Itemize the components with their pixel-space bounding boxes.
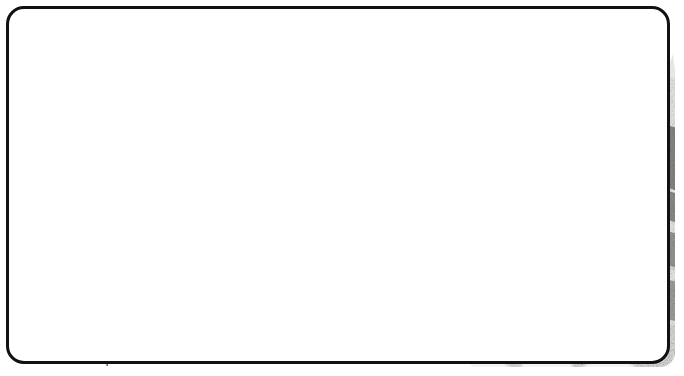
fossil-label-viviparus: Viviparus [224, 270, 271, 282]
gastropod-fossil [141, 185, 273, 277]
ammonite-fossil [23, 261, 127, 359]
intro-line-4: and which the oldest? [38, 115, 338, 129]
content-clip: How old are the rocks ? Here is a sequen… [9, 9, 675, 367]
gastropod-fossil-icon [141, 185, 273, 273]
intro-line-2: been disturbed by earth movements. Using… [38, 86, 338, 100]
fossil-label-encrinurus: Encrinurus [44, 212, 99, 224]
intro-paragraph: Here is a sequence of sedimentary rocks … [38, 72, 338, 129]
bed-label-a: A [497, 201, 511, 215]
rock-strata-illustration [361, 18, 675, 367]
bed-label-c: C [466, 296, 480, 310]
fossil-label-hoplites: Hoplites [91, 354, 133, 366]
page-title: How old are the rocks ? [33, 26, 425, 65]
intro-line-1: Here is a sequence of sedimentary rocks … [38, 72, 338, 86]
rock-strata-svg [361, 18, 675, 367]
intro-line-2-plain: been disturbed by earth movements. [38, 87, 220, 99]
worksheet-page: How old are the rocks ? Here is a sequen… [0, 0, 684, 376]
bed-label-b: B [441, 234, 455, 248]
intro-line-2-bold: Using the fossils, [223, 87, 316, 99]
ammonite-fossil-icon [23, 261, 127, 355]
rock-body [361, 78, 675, 367]
intro-line-3: can you work out which layer is the youn… [38, 100, 338, 114]
